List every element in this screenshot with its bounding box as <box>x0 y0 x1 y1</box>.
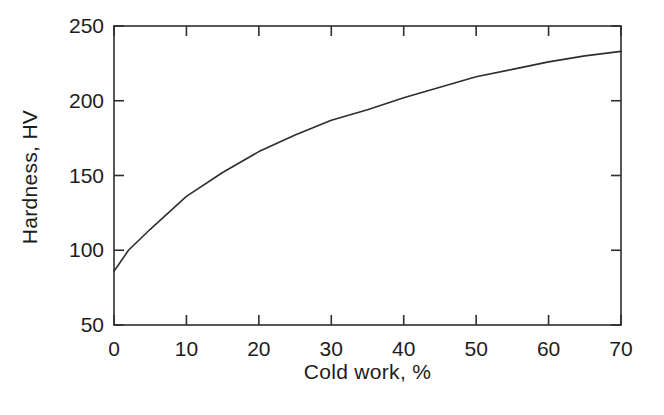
y-tick-label: 150 <box>69 164 104 187</box>
x-tick-label: 10 <box>175 337 198 360</box>
y-tick-label: 100 <box>69 238 104 261</box>
y-tick-label: 50 <box>81 313 104 336</box>
x-tick-label: 30 <box>320 337 343 360</box>
y-axis-title: Hardness, HV <box>18 110 42 244</box>
figure: 01020304050607050100150200250 Hardness, … <box>0 0 664 415</box>
y-tick-label: 250 <box>69 14 104 37</box>
x-tick-label: 40 <box>392 337 415 360</box>
x-tick-label: 20 <box>247 337 270 360</box>
y-tick-label: 200 <box>69 89 104 112</box>
x-axis-title: Cold work, % <box>114 360 621 384</box>
x-tick-label: 70 <box>609 337 632 360</box>
series-hardness-vs-cold-work <box>114 51 621 271</box>
line-chart: 01020304050607050100150200250 <box>0 0 664 415</box>
x-tick-label: 60 <box>537 337 560 360</box>
x-tick-label: 50 <box>464 337 487 360</box>
plot-frame <box>114 26 621 325</box>
x-tick-label: 0 <box>108 337 120 360</box>
